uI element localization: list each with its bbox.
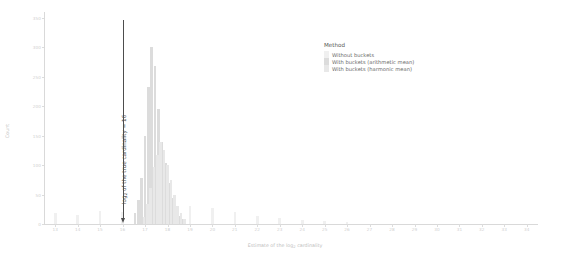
y-tick-mark xyxy=(42,195,45,196)
histogram-bar xyxy=(99,211,102,224)
histogram-bar xyxy=(234,212,237,224)
histogram-bar xyxy=(189,206,192,224)
histogram-bar xyxy=(173,195,176,224)
x-tick-mark xyxy=(55,224,56,227)
legend-swatch xyxy=(324,58,329,65)
x-tick-label: 29 xyxy=(412,227,418,232)
x-tick-label: 18 xyxy=(165,227,171,232)
x-tick-mark xyxy=(235,224,236,227)
x-tick-mark xyxy=(459,224,460,227)
histogram-bar xyxy=(211,208,214,224)
y-tick-mark xyxy=(42,136,45,137)
y-tick-mark xyxy=(42,47,45,48)
histogram-bar xyxy=(163,150,166,224)
y-tick-label: 200 xyxy=(33,104,41,109)
x-tick-mark xyxy=(257,224,258,227)
y-tick-label: 300 xyxy=(33,45,41,50)
y-tick-label: 50 xyxy=(35,192,41,197)
x-tick-mark xyxy=(280,224,281,227)
histogram-bar xyxy=(166,165,169,224)
x-tick-mark xyxy=(78,224,79,227)
legend-item[interactable]: With buckets (arithmetic mean) xyxy=(324,58,414,65)
y-tick-label: 350 xyxy=(33,15,41,20)
x-tick-mark xyxy=(504,224,505,227)
histogram-bar xyxy=(323,221,326,224)
histogram-bar xyxy=(170,180,173,224)
x-tick-mark xyxy=(325,224,326,227)
histogram-bar xyxy=(76,215,79,224)
x-tick-label: 26 xyxy=(344,227,350,232)
y-tick-label: 250 xyxy=(33,74,41,79)
x-tick-label: 14 xyxy=(75,227,81,232)
x-tick-mark xyxy=(123,224,124,227)
x-tick-mark xyxy=(302,224,303,227)
annotation-label: log2 of the true cardinality = 16 xyxy=(121,115,128,204)
x-tick-label: 30 xyxy=(434,227,440,232)
x-tick-label: 25 xyxy=(322,227,328,232)
legend-item[interactable]: Without buckets xyxy=(324,51,414,58)
x-axis-line xyxy=(44,224,538,225)
legend-swatch xyxy=(324,65,329,72)
histogram-bar xyxy=(346,222,349,224)
y-axis-title: Count xyxy=(5,124,10,138)
x-tick-mark xyxy=(527,224,528,227)
y-tick-label: 100 xyxy=(33,163,41,168)
x-tick-mark xyxy=(347,224,348,227)
x-tick-mark xyxy=(212,224,213,227)
x-tick-label: 19 xyxy=(187,227,193,232)
x-tick-label: 31 xyxy=(457,227,463,232)
legend: Method Without bucketsWith buckets (arit… xyxy=(324,42,414,72)
x-tick-label: 22 xyxy=(255,227,261,232)
histogram-bar xyxy=(54,213,57,224)
legend-item-label: Without buckets xyxy=(332,52,374,58)
x-tick-label: 21 xyxy=(232,227,238,232)
x-tick-mark xyxy=(370,224,371,227)
legend-title: Method xyxy=(324,42,414,48)
x-tick-label: 27 xyxy=(367,227,373,232)
x-tick-mark xyxy=(100,224,101,227)
y-tick-mark xyxy=(42,224,45,225)
x-tick-label: 20 xyxy=(210,227,216,232)
y-tick-mark xyxy=(42,165,45,166)
histogram-bar xyxy=(256,216,259,224)
x-tick-label: 34 xyxy=(524,227,530,232)
histogram-bar xyxy=(134,213,137,224)
x-tick-mark xyxy=(392,224,393,227)
legend-item-label: With buckets (arithmetic mean) xyxy=(332,59,414,65)
histogram-bar xyxy=(137,200,140,224)
x-tick-mark xyxy=(437,224,438,227)
x-tick-label: 24 xyxy=(299,227,305,232)
histogram-bar xyxy=(153,167,156,224)
x-tick-label: 15 xyxy=(97,227,103,232)
histogram-bar xyxy=(180,213,183,224)
y-tick-label: 150 xyxy=(33,133,41,138)
histogram-bar xyxy=(301,220,304,224)
x-tick-mark xyxy=(145,224,146,227)
legend-item[interactable]: With buckets (harmonic mean) xyxy=(324,65,414,72)
x-tick-mark xyxy=(190,224,191,227)
x-tick-label: 23 xyxy=(277,227,283,232)
legend-item-label: With buckets (harmonic mean) xyxy=(332,66,412,72)
x-tick-mark xyxy=(168,224,169,227)
x-tick-mark xyxy=(482,224,483,227)
histogram-bar xyxy=(146,204,149,224)
y-tick-mark xyxy=(42,18,45,19)
histogram-bar xyxy=(156,155,159,224)
y-tick-mark xyxy=(42,106,45,107)
plot-area: 050100150200250300350 131415161718192021… xyxy=(44,12,538,224)
legend-swatch xyxy=(324,51,329,58)
x-tick-label: 33 xyxy=(502,227,508,232)
y-tick-mark xyxy=(42,77,45,78)
histogram-bar xyxy=(143,217,146,224)
x-tick-label: 28 xyxy=(389,227,395,232)
histogram-bar xyxy=(159,142,162,224)
histogram-chart: Count Estimate of the log2 cardinality 0… xyxy=(0,0,561,263)
x-tick-label: 17 xyxy=(142,227,148,232)
y-axis-line xyxy=(44,12,45,224)
x-axis-title: Estimate of the log2 cardinality xyxy=(248,243,323,249)
histogram-bar xyxy=(183,219,186,224)
histogram-bar xyxy=(149,188,152,225)
x-tick-mark xyxy=(415,224,416,227)
histogram-bar xyxy=(176,206,179,224)
histogram-bar xyxy=(278,218,281,224)
